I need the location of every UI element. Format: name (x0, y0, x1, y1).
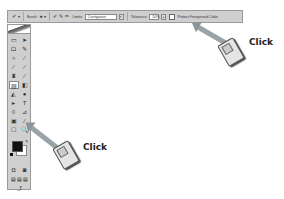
gradient-tool-icon[interactable]: ◧ (20, 81, 30, 89)
lasso-tool-icon[interactable]: ᗝ (9, 45, 19, 53)
hand-tool-icon[interactable]: ☐ (9, 126, 19, 134)
protect-foreground-label: Protect Foreground Color (177, 15, 218, 19)
limits-value: Contiguous (88, 15, 106, 19)
magic-wand-tool-icon[interactable]: ✎ (20, 45, 30, 53)
limits-label: Limits: (72, 15, 82, 19)
swap-colors-icon[interactable]: ↰ (25, 139, 28, 144)
dodge-tool-icon[interactable]: ● (20, 90, 30, 98)
color-swatches: ↰ (10, 139, 28, 161)
screen-mode-row: ▤ ▤ ▤ (8, 176, 30, 182)
options-bar: ✐ ▾ Brush: ● ▾ ✐ ✎ ✏ Limits: Contiguous … (7, 10, 243, 23)
erase-once-icon[interactable]: ✐ (53, 14, 57, 19)
erase-contiguous-icon[interactable]: ✎ (59, 14, 63, 19)
path-selection-tool-icon[interactable]: ▸ (9, 99, 19, 107)
standard-mode-icon[interactable]: ◘ (9, 166, 19, 174)
brush-label: Brush: (27, 15, 37, 19)
tolerance-input[interactable]: 50% (149, 14, 159, 20)
tolerance-stepper-icon[interactable]: ▸ (161, 14, 166, 20)
toolbox-header[interactable] (8, 25, 30, 34)
protect-foreground-checkbox[interactable] (169, 14, 175, 20)
healing-brush-tool-icon[interactable]: ∕ (9, 63, 19, 71)
toolbox: ▭ ➤ ᗝ ✎ ⌗ ∕ ∕ ∕ ♜ ∕ ▨ ◧ ◭ ● ▸ T ◊ ⊿ ▣ ∕ … (7, 24, 31, 190)
divider (49, 12, 50, 21)
divider (127, 12, 128, 21)
clone-stamp-tool-icon[interactable]: ♜ (9, 72, 19, 80)
tool-preset-dropdown-icon[interactable]: ▾ (18, 15, 20, 19)
screen-mode-fullmenu-icon[interactable]: ▤ (17, 176, 22, 182)
crop-tool-icon[interactable]: ⌗ (9, 54, 19, 62)
callout-label-bottom: Click (83, 142, 107, 152)
pen-tool-icon[interactable]: ◊ (9, 108, 19, 116)
callout-arrow-bottom (28, 125, 58, 150)
eraser-tool-icon[interactable]: ▨ (9, 81, 19, 89)
type-tool-icon[interactable]: T (20, 99, 30, 107)
screen-mode-full-icon[interactable]: ▤ (23, 176, 28, 182)
mode-grid: ◘ ◙ (8, 164, 30, 176)
divider (23, 12, 24, 21)
tolerance-label: Tolerance: (131, 15, 148, 19)
default-colors-icon[interactable] (10, 153, 13, 156)
blur-tool-icon[interactable]: ◭ (9, 90, 19, 98)
sample-background-icon[interactable]: ✏ (65, 14, 69, 19)
limits-dropdown-arrow-icon[interactable]: ▾ (119, 14, 124, 20)
brush-tool-icon[interactable]: ∕ (20, 63, 30, 71)
foreground-color-swatch[interactable] (12, 141, 23, 152)
brush-preview-icon[interactable]: ● (39, 14, 42, 19)
history-brush-tool-icon[interactable]: ∕ (20, 72, 30, 80)
jump-to-imageready-icon[interactable]: ⤴ (8, 184, 30, 191)
quick-mask-mode-icon[interactable]: ◙ (20, 166, 30, 174)
brush-dropdown-icon[interactable]: ▾ (44, 15, 46, 19)
marquee-tool-icon[interactable]: ▭ (9, 36, 19, 44)
callout-label-top: Click (249, 37, 273, 47)
screen-mode-standard-icon[interactable]: ▤ (11, 176, 16, 182)
limits-dropdown[interactable]: Contiguous (85, 14, 117, 20)
slice-tool-icon[interactable]: ∕ (20, 54, 30, 62)
tolerance-value: 50% (152, 15, 159, 19)
notes-tool-icon[interactable]: ▣ (9, 117, 19, 125)
move-tool-icon[interactable]: ➤ (20, 36, 30, 44)
shape-tool-icon[interactable]: ⊿ (20, 108, 30, 116)
eraser-tool-icon[interactable]: ✐ (12, 14, 16, 19)
